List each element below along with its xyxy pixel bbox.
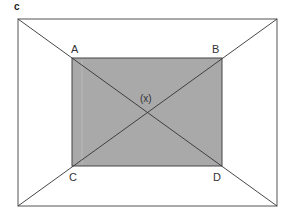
- center-label-x: (x): [140, 93, 152, 104]
- point-label-d: D: [213, 171, 221, 183]
- point-label-b: B: [212, 43, 219, 55]
- point-label-a: A: [71, 43, 79, 55]
- diagram-canvas: A B C D (x): [0, 0, 292, 219]
- point-label-c: C: [69, 171, 77, 183]
